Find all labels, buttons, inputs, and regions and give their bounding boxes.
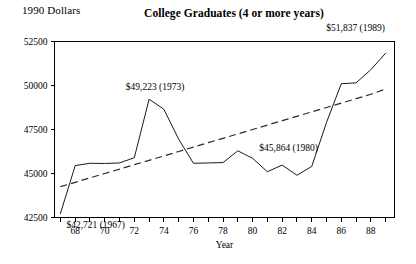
x-axis-tick-label: 72 (130, 226, 140, 236)
y-axis-ticks (51, 42, 55, 218)
y-axis-tick-label: 47500 (24, 125, 48, 135)
y-axis-tick-label: 50000 (24, 81, 48, 91)
data-point-annotation: $42,721 (1967) (66, 220, 125, 231)
data-point-annotation: $51,837 (1989) (326, 23, 385, 34)
line-chart-plot: 5250050000475004500042500 68707274767880… (0, 0, 416, 264)
y-axis-tick-label: 45000 (24, 169, 48, 179)
x-axis-tick-label: 84 (307, 226, 317, 236)
chart-figure: 1990 Dollars College Graduates (4 or mor… (0, 0, 416, 264)
plot-frame (55, 42, 395, 218)
x-axis-tick-label: 88 (366, 226, 376, 236)
y-axis-tick-labels: 5250050000475004500042500 (24, 37, 48, 223)
y-axis-tick-label: 42500 (24, 213, 48, 223)
x-axis-tick-label: 74 (159, 226, 169, 236)
x-axis-tick-label: 82 (277, 226, 287, 236)
data-series-line (60, 53, 385, 213)
x-axis-tick-label: 78 (218, 226, 228, 236)
data-annotations: $42,721 (1967)$49,223 (1973)$45,864 (198… (66, 23, 385, 230)
x-axis-tick-label: 76 (189, 226, 199, 236)
chart-title: College Graduates (4 or more years) (0, 7, 416, 19)
data-point-annotation: $45,864 (1980) (259, 143, 318, 154)
x-axis-tick-label: 86 (337, 226, 347, 236)
x-axis-tick-label: 80 (248, 226, 258, 236)
trend-line-dashed (60, 89, 385, 187)
data-point-annotation: $49,223 (1973) (126, 82, 185, 93)
x-axis-title: Year (216, 240, 234, 250)
y-axis-tick-label: 52500 (24, 37, 48, 47)
